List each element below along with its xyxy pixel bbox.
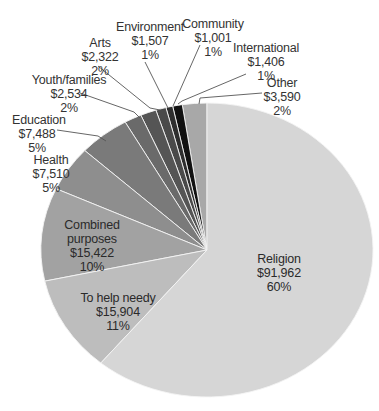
label-combined-purposes-pct: 10% <box>62 260 122 274</box>
label-other-value: $3,590 <box>262 90 302 104</box>
label-community-name: Community <box>180 17 246 31</box>
leader-line-other <box>199 93 262 104</box>
label-to-help-needy: To help needy $15,904 11% <box>78 291 158 333</box>
label-religion-value: $91,962 <box>250 266 308 280</box>
label-education-value: $7,488 <box>12 127 62 141</box>
label-youth-families: Youth/families $2,534 2% <box>27 73 111 115</box>
label-health: Health $7,510 5% <box>30 153 72 195</box>
label-education-name: Education <box>12 113 62 127</box>
label-other: Other $3,590 2% <box>262 76 302 118</box>
label-combined-purposes-name2: purposes <box>62 232 122 246</box>
label-environment-name: Environment <box>112 20 188 34</box>
label-arts: Arts $2,322 2% <box>80 36 120 78</box>
label-combined-purposes-name1: Combined <box>62 218 122 232</box>
label-religion-name: Religion <box>250 252 308 266</box>
label-other-name: Other <box>262 76 302 90</box>
label-youth-families-name: Youth/families <box>27 73 111 87</box>
label-health-value: $7,510 <box>30 167 72 181</box>
label-health-pct: 5% <box>30 181 72 195</box>
label-environment: Environment $1,507 1% <box>112 20 188 62</box>
leader-line-environment <box>145 62 168 108</box>
label-combined-purposes: Combined purposes $15,422 10% <box>62 218 122 274</box>
label-environment-value: $1,507 <box>112 34 188 48</box>
label-environment-pct: 1% <box>112 48 188 62</box>
label-education: Education $7,488 5% <box>12 113 62 155</box>
label-religion: Religion $91,962 60% <box>250 252 308 294</box>
label-health-name: Health <box>30 153 72 167</box>
label-to-help-needy-value: $15,904 <box>78 305 158 319</box>
label-youth-families-value: $2,534 <box>27 87 111 101</box>
label-international-name: International <box>226 41 306 55</box>
pie-chart <box>0 0 379 411</box>
label-combined-purposes-value: $15,422 <box>62 246 122 260</box>
label-international-value: $1,406 <box>226 55 306 69</box>
label-arts-name: Arts <box>80 36 120 50</box>
label-religion-pct: 60% <box>250 280 308 294</box>
label-to-help-needy-name: To help needy <box>78 291 158 305</box>
label-arts-value: $2,322 <box>80 50 120 64</box>
label-other-pct: 2% <box>262 104 302 118</box>
label-to-help-needy-pct: 11% <box>78 319 158 333</box>
